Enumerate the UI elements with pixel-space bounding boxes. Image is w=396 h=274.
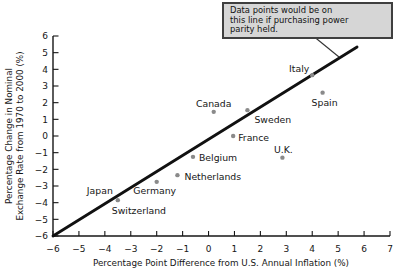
x-tick-label: 6 xyxy=(361,244,367,254)
x-tick-label: 0 xyxy=(206,244,212,254)
country-label-germany: Germany xyxy=(133,185,176,196)
data-point-canada xyxy=(212,110,216,114)
x-tick-label: −6 xyxy=(46,244,60,254)
data-point-belgium xyxy=(191,155,195,159)
country-label-canada: Canada xyxy=(196,98,231,109)
y-tick-label: 1 xyxy=(42,115,48,125)
x-tick-label: 4 xyxy=(309,244,315,254)
y-tick-label: 6 xyxy=(42,31,48,41)
y-tick-label: 4 xyxy=(42,65,48,75)
ppp-scatter-chart: −6−5−4−3−2−1012345676543210−1−2−3−4−5−6C… xyxy=(0,0,396,274)
annotation-line-3: parity held. xyxy=(230,25,388,35)
country-label-u-k: U.K. xyxy=(274,144,293,155)
y-tick-label: 0 xyxy=(42,131,48,141)
y-axis-title-line1: Percentage Change in Nominal xyxy=(4,68,14,204)
x-tick-label: 7 xyxy=(387,244,393,254)
data-point-france xyxy=(231,134,235,138)
y-tick-label: 2 xyxy=(42,98,48,108)
y-tick-label: 5 xyxy=(42,48,48,58)
x-tick-label: −2 xyxy=(150,244,163,254)
data-point-netherlands xyxy=(175,173,179,177)
country-label-switzerland: Switzerland xyxy=(112,205,166,216)
x-tick-label: 5 xyxy=(335,244,341,254)
x-tick-label: −3 xyxy=(124,244,137,254)
x-tick-label: 1 xyxy=(232,244,238,254)
y-tick-label: −4 xyxy=(35,198,49,208)
data-point-spain xyxy=(320,90,324,94)
y-tick-label: −6 xyxy=(35,231,49,241)
y-tick-label: 3 xyxy=(42,81,48,91)
y-tick-label: −3 xyxy=(35,181,48,191)
country-label-netherlands: Netherlands xyxy=(184,171,241,182)
country-label-japan: Japan xyxy=(86,185,113,196)
data-point-japan xyxy=(116,198,120,202)
x-tick-label: 2 xyxy=(258,244,264,254)
x-tick-label: −1 xyxy=(176,244,189,254)
y-tick-label: −2 xyxy=(35,165,48,175)
x-tick-label: −5 xyxy=(72,244,85,254)
x-tick-label: −4 xyxy=(98,244,112,254)
x-tick-label: 3 xyxy=(283,244,289,254)
x-axis-title: Percentage Point Difference from U.S. An… xyxy=(93,258,349,268)
country-label-italy: Italy xyxy=(289,63,310,74)
ppp-annotation-box: Data points would be on this line if pur… xyxy=(222,2,393,39)
y-axis-title-line2: Exchange Rate from 1970 to 2000 (%) xyxy=(15,51,25,220)
chart-canvas: −6−5−4−3−2−1012345676543210−1−2−3−4−5−6C… xyxy=(0,0,396,274)
country-label-belgium: Belgium xyxy=(199,152,237,163)
data-point-sweden xyxy=(245,108,249,112)
country-label-france: France xyxy=(238,132,269,143)
y-tick-label: −5 xyxy=(35,215,48,225)
y-tick-label: −1 xyxy=(35,148,48,158)
data-point-italy xyxy=(310,73,314,77)
data-point-germany xyxy=(154,180,158,184)
country-label-spain: Spain xyxy=(312,97,338,108)
data-point-u-k xyxy=(280,155,284,159)
country-label-sweden: Sweden xyxy=(254,114,291,125)
